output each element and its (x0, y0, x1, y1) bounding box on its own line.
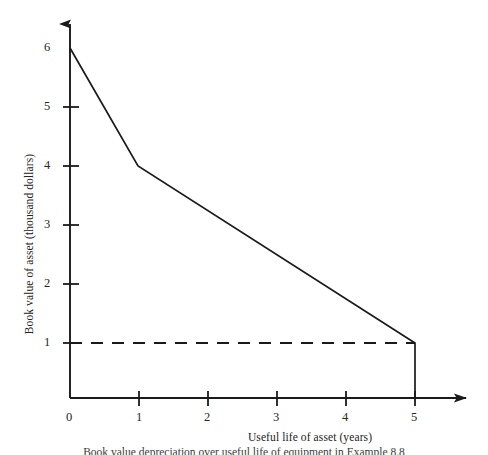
x-tick-label-3: 3 (273, 411, 279, 424)
book-value-line (70, 48, 415, 398)
chart-canvas (0, 0, 488, 455)
y-axis-ticks (63, 107, 79, 343)
x-axis-title-wrap: Useful life of asset (years) (190, 427, 430, 445)
y-axis-title-wrap: Book value of asset (thousand dollars) (19, 124, 37, 364)
y-tick-label-6: 6 (44, 41, 50, 54)
x-axis-title: Useful life of asset (years) (248, 431, 372, 443)
y-tick-label-3: 3 (44, 218, 50, 231)
y-tick-label-1: 1 (44, 336, 50, 349)
x-tick-label-4: 4 (342, 411, 348, 424)
figure-container: 6 5 4 3 2 1 0 1 2 3 4 5 Book value of as… (0, 0, 488, 455)
figure-caption: Book value depreciation over useful life… (0, 446, 488, 455)
x-tick-label-1: 1 (136, 411, 142, 424)
y-tick-label-5: 5 (44, 100, 50, 113)
y-tick-label-4: 4 (44, 159, 50, 172)
y-axis-title: Book value of asset (thousand dollars) (23, 154, 35, 334)
x-tick-label-5: 5 (411, 411, 417, 424)
x-tick-label-0: 0 (66, 411, 72, 424)
y-tick-label-2: 2 (44, 277, 50, 290)
x-tick-label-2: 2 (204, 411, 210, 424)
